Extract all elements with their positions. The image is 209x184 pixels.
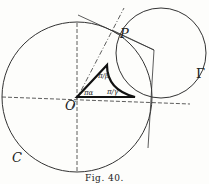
label-angle-beta: π/β [97,72,109,80]
label-o: O [65,98,76,113]
circle-gamma [116,8,206,98]
figure-40: P O C Γ πα π/β π/γ Fig. 40. [0,0,209,184]
label-gamma: Γ [196,66,205,81]
label-p: P [119,26,129,41]
figure-caption: Fig. 40. [85,173,124,183]
label-angle-alpha: πα [83,89,94,97]
label-c: C [12,150,22,165]
label-angle-gamma: π/γ [106,88,119,96]
